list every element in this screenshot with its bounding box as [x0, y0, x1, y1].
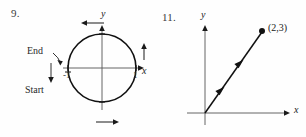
figure-11-drawing: [0, 0, 306, 137]
fig11-x-axis-arrowhead: [284, 110, 290, 116]
figure-11-y-axis-label: y: [201, 9, 205, 20]
fig11-ray-direction-arrowhead-1: [215, 87, 224, 96]
fig11-ray-direction-arrowhead-2: [234, 60, 243, 69]
figure-page: 9. End Start y x: [0, 0, 306, 137]
fig11-y-axis-arrowhead: [202, 25, 208, 31]
figure-11-point-label: (2,3): [268, 22, 287, 33]
fig11-endpoint-dot: [259, 28, 265, 34]
figure-11-x-axis-label: x: [294, 104, 298, 115]
fig11-ray-line: [205, 32, 262, 113]
